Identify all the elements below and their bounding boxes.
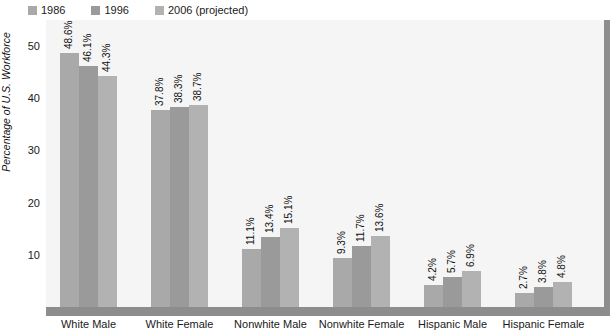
legend-item-1996[interactable]: 1996 bbox=[91, 5, 128, 16]
bar[interactable] bbox=[352, 246, 371, 307]
bar-value-label: 5.7% bbox=[447, 250, 457, 273]
x-axis-label-white-female: White Female bbox=[146, 318, 214, 330]
bar[interactable] bbox=[553, 282, 572, 307]
bar-group: 9.3%11.7%13.6% bbox=[333, 236, 390, 307]
bar-group: 2.7%3.8%4.8% bbox=[515, 282, 572, 307]
bar[interactable] bbox=[242, 249, 261, 307]
bar-column[interactable]: 4.8% bbox=[553, 282, 572, 307]
bar-column[interactable]: 5.7% bbox=[443, 277, 462, 307]
bar[interactable] bbox=[333, 258, 352, 307]
x-axis-label-hispanic-female: Hispanic Female bbox=[503, 318, 585, 330]
bar-value-label: 48.6% bbox=[64, 21, 74, 49]
bar-column[interactable]: 46.1% bbox=[79, 66, 98, 307]
legend-item-2006-projected[interactable]: 2006 (projected) bbox=[155, 5, 248, 16]
legend-swatch-1986 bbox=[28, 6, 37, 15]
legend-item-1986[interactable]: 1986 bbox=[28, 5, 65, 16]
bar-column[interactable]: 38.7% bbox=[189, 105, 208, 307]
bar-group: 37.8%38.3%38.7% bbox=[151, 105, 208, 307]
bar-column[interactable]: 4.2% bbox=[424, 285, 443, 307]
bar[interactable] bbox=[79, 66, 98, 307]
x-axis-label-hispanic-male: Hispanic Male bbox=[418, 318, 487, 330]
bar-group: 48.6%46.1%44.3% bbox=[60, 53, 117, 307]
bar-value-label: 11.7% bbox=[356, 214, 366, 242]
bar[interactable] bbox=[170, 107, 189, 307]
bar[interactable] bbox=[443, 277, 462, 307]
legend-label-1986: 1986 bbox=[41, 5, 65, 16]
y-axis-ticks: 1020304050 bbox=[0, 20, 40, 316]
bar[interactable] bbox=[151, 110, 170, 307]
bar-value-label: 4.2% bbox=[428, 258, 438, 281]
bar-value-label: 6.9% bbox=[466, 244, 476, 267]
y-tick-label-20: 20 bbox=[4, 197, 40, 209]
plot-area: 48.6%46.1%44.3%37.8%38.3%38.7%11.1%13.4%… bbox=[46, 20, 610, 316]
bar-value-label: 4.8% bbox=[557, 255, 567, 278]
legend-swatch-2006-projected bbox=[155, 6, 164, 15]
bar-value-label: 44.3% bbox=[102, 43, 112, 71]
y-tick-label-30: 30 bbox=[4, 144, 40, 156]
bar-group: 11.1%13.4%15.1% bbox=[242, 228, 299, 307]
bar-column[interactable]: 11.7% bbox=[352, 246, 371, 307]
axis-right-edge bbox=[604, 20, 610, 316]
bar-column[interactable]: 6.9% bbox=[462, 271, 481, 307]
bar[interactable] bbox=[534, 287, 553, 307]
bar-column[interactable]: 2.7% bbox=[515, 293, 534, 307]
legend-label-1996: 1996 bbox=[104, 5, 128, 16]
bar-value-label: 3.8% bbox=[538, 260, 548, 283]
bar-column[interactable]: 3.8% bbox=[534, 287, 553, 307]
bar-column[interactable]: 13.6% bbox=[371, 236, 390, 307]
bar-column[interactable]: 9.3% bbox=[333, 258, 352, 307]
axis-baseline bbox=[46, 307, 610, 316]
bar[interactable] bbox=[424, 285, 443, 307]
bar-column[interactable]: 44.3% bbox=[98, 76, 117, 307]
bar-value-label: 11.1% bbox=[246, 217, 256, 245]
bar-column[interactable]: 11.1% bbox=[242, 249, 261, 307]
bar-column[interactable]: 15.1% bbox=[280, 228, 299, 307]
bar-value-label: 37.8% bbox=[155, 77, 165, 105]
legend-label-2006-projected: 2006 (projected) bbox=[168, 5, 248, 16]
bar-value-label: 46.1% bbox=[83, 34, 93, 62]
y-tick-label-50: 50 bbox=[4, 40, 40, 52]
bar[interactable] bbox=[261, 237, 280, 307]
x-axis-label-white-male: White Male bbox=[61, 318, 116, 330]
bar-value-label: 15.1% bbox=[284, 196, 294, 224]
bar-value-label: 9.3% bbox=[337, 232, 347, 255]
bar[interactable] bbox=[515, 293, 534, 307]
y-tick-label-40: 40 bbox=[4, 92, 40, 104]
legend-swatch-1996 bbox=[91, 6, 100, 15]
bar[interactable] bbox=[98, 76, 117, 307]
bar[interactable] bbox=[280, 228, 299, 307]
bar[interactable] bbox=[462, 271, 481, 307]
chart-legend: 1986 1996 2006 (projected) bbox=[28, 2, 274, 18]
bar-column[interactable]: 13.4% bbox=[261, 237, 280, 307]
bar-value-label: 13.4% bbox=[265, 205, 275, 233]
bar-value-label: 2.7% bbox=[519, 266, 529, 289]
x-axis-label-nonwhite-male: Nonwhite Male bbox=[234, 318, 307, 330]
bar-column[interactable]: 48.6% bbox=[60, 53, 79, 307]
y-tick-label-10: 10 bbox=[4, 249, 40, 261]
x-axis-label-nonwhite-female: Nonwhite Female bbox=[319, 318, 405, 330]
bar[interactable] bbox=[371, 236, 390, 307]
plot-background bbox=[46, 20, 604, 307]
bar-column[interactable]: 37.8% bbox=[151, 110, 170, 307]
bar-value-label: 13.6% bbox=[375, 204, 385, 232]
bar[interactable] bbox=[189, 105, 208, 307]
bar-column[interactable]: 38.3% bbox=[170, 107, 189, 307]
bar-value-label: 38.3% bbox=[174, 75, 184, 103]
bar[interactable] bbox=[60, 53, 79, 307]
bar-group: 4.2%5.7%6.9% bbox=[424, 271, 481, 307]
bar-value-label: 38.7% bbox=[193, 73, 203, 101]
workforce-composition-bar-chart: 1986 1996 2006 (projected) Percentage of… bbox=[0, 0, 616, 335]
